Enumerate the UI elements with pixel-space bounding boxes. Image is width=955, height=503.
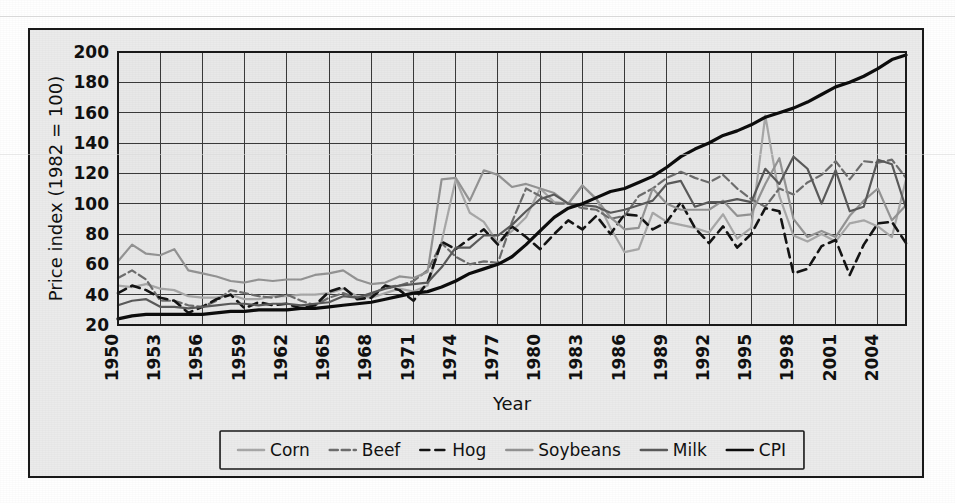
y-tick-label: 40	[85, 285, 109, 305]
x-tick-label: 1959	[229, 334, 249, 381]
x-tick-label: 1956	[186, 334, 206, 381]
x-tick-label: 1953	[144, 334, 164, 381]
y-tick-label: 120	[74, 163, 110, 183]
x-tick-label: 1977	[482, 334, 502, 381]
y-tick-label: 140	[74, 133, 110, 153]
figure-root: 20406080100120140160180200 1950195319561…	[0, 0, 955, 503]
y-tick-label: 60	[85, 254, 109, 274]
price-index-line-chart: 20406080100120140160180200 1950195319561…	[0, 0, 955, 503]
y-tick-label: 80	[85, 224, 109, 244]
x-tick-label: 1995	[735, 334, 755, 381]
x-tick-label: 1974	[440, 334, 460, 381]
x-tick-label: 1971	[398, 334, 418, 381]
x-axis-title: Year	[492, 393, 532, 414]
legend-label-soybeans: Soybeans	[538, 440, 621, 460]
x-tick-label: 2004	[862, 334, 882, 381]
x-tick-label: 1992	[693, 334, 713, 381]
x-tick-label: 1989	[651, 334, 671, 381]
x-axis-tick-labels: 1950195319561959196219651968197119741977…	[102, 334, 882, 381]
y-tick-label: 20	[85, 315, 109, 335]
y-tick-label: 100	[74, 194, 110, 214]
legend-label-corn: Corn	[270, 440, 310, 460]
legend-label-milk: Milk	[673, 440, 707, 460]
x-tick-label: 1965	[313, 334, 333, 381]
chart-legend: CornBeefHogSoybeansMilkCPI	[220, 431, 804, 469]
scan-artifact-top	[0, 16, 955, 17]
legend-label-beef: Beef	[362, 440, 402, 460]
plot-area-background	[118, 52, 906, 325]
x-tick-label: 1983	[566, 334, 586, 381]
x-tick-label: 1968	[355, 334, 375, 381]
plot-background	[118, 52, 906, 325]
legend-label-hog: Hog	[452, 440, 486, 460]
x-tick-label: 1962	[271, 334, 291, 381]
x-tick-label: 1986	[609, 334, 629, 381]
legend-label-cpi: CPI	[759, 440, 786, 460]
y-axis-tick-labels: 20406080100120140160180200	[74, 42, 110, 335]
x-tick-label: 1950	[102, 334, 122, 381]
y-tick-label: 160	[74, 103, 110, 123]
scan-artifact-mid	[0, 154, 955, 155]
y-tick-label: 180	[74, 72, 110, 92]
x-tick-label: 1980	[524, 334, 544, 381]
x-tick-label: 1998	[777, 334, 797, 381]
x-tick-label: 2001	[820, 334, 840, 381]
y-tick-label: 200	[74, 42, 110, 62]
y-axis-title: Price index (1982 = 100)	[45, 76, 66, 301]
